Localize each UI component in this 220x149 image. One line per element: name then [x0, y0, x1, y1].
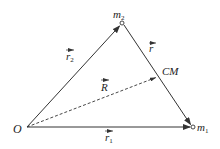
vector-r-arrow — [124, 25, 191, 125]
cm-label: CM — [162, 65, 179, 77]
vector-r-label: r — [149, 42, 156, 54]
vector-R-label: R — [100, 80, 109, 93]
m1-label: m1 — [197, 121, 209, 135]
svg-text:R: R — [100, 81, 108, 93]
svg-text:m1: m1 — [197, 121, 209, 135]
vector-r2-arrow — [27, 26, 120, 127]
vector-r2-label: r2 — [66, 50, 74, 64]
vector-r1-label: r1 — [105, 131, 113, 145]
svg-text:r2: r2 — [66, 50, 74, 64]
m2-label: m2 — [113, 8, 125, 22]
origin-label: O — [13, 122, 22, 136]
vector-R-dashed-arrow — [27, 78, 156, 128]
svg-text:r1: r1 — [105, 131, 113, 145]
m1-point — [191, 125, 195, 129]
diagram-svg: O m2 m1 CM r2 r R r1 — [0, 0, 220, 149]
svg-text:r: r — [149, 42, 154, 54]
svg-text:m2: m2 — [113, 8, 125, 22]
diagram-canvas: O m2 m1 CM r2 r R r1 — [0, 0, 220, 149]
